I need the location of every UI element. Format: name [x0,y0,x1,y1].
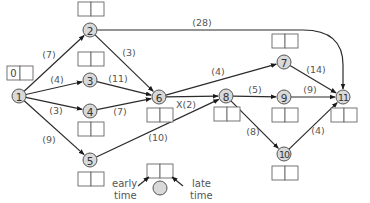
legend-early-arrow [138,177,149,186]
legend-early-label-2: time [114,190,137,201]
node-label: 7 [281,57,288,69]
edge-label-8-10: (8) [246,126,259,137]
early-time-box-10 [272,166,285,180]
node-11: 11 [331,90,357,122]
legend-early-box [147,164,160,178]
node-2: 2 [78,2,104,37]
node-label: 2 [87,25,94,37]
late-time-box-10 [285,166,298,180]
edge-label-1-5: (9) [42,134,55,145]
late-time-box-9 [285,108,298,122]
early-time-box-7 [272,34,285,48]
edge-label-1-3: (4) [50,74,63,85]
edge-label-8-9: (5) [248,84,261,95]
early-time-box-5 [78,172,91,186]
legend-late-label-1: late [192,178,211,189]
node-label: 11 [338,92,349,103]
early-time-box-11 [331,108,344,122]
node-label: 3 [87,75,94,87]
legend-late-box [160,164,173,178]
early-time-box-3 [78,52,91,66]
early-time-box-4 [78,122,91,136]
early-time-box-9 [272,108,285,122]
edge-label-6-8: X(2) [176,99,196,110]
late-time-box-2 [91,2,104,16]
edge-label-4-6: (7) [113,106,126,117]
late-time-box-5 [91,172,104,186]
node-9: 9 [272,90,298,122]
edge-label-9-11: (9) [303,84,316,95]
node-10: 10 [272,147,298,180]
edge-label-5-8: (10) [148,132,168,143]
early-time-box-8 [214,107,227,121]
node-label: 10 [279,149,290,160]
edges-layer [24,30,343,157]
late-time-box-4 [91,122,104,136]
node-label: 8 [223,91,230,103]
legend: early time late time [112,164,213,201]
node-5: 5 [78,153,104,186]
node-label: 5 [87,155,94,167]
legend-early-label-1: early [112,178,137,189]
late-time-box-1 [20,66,33,80]
edge-8-9 [233,96,276,97]
node-label: 4 [87,106,94,118]
legend-late-label-2: time [190,190,213,201]
late-time-box-11 [344,108,357,122]
legend-node-icon [153,181,167,195]
node-label: 1 [16,91,23,103]
node-8: 8 [214,89,240,121]
early-time-box-6 [147,108,160,122]
edge-label-10-11: (4) [311,125,324,136]
node-label: 9 [281,92,288,104]
edge-label-2-11: (28) [192,17,212,28]
node-1: 10 [7,66,33,103]
edge-label-6-7: (4) [211,66,224,77]
network-diagram: (7)(4)(3)(9)(3)(28)(11)(7)(10)(4)X(2)(14… [0,0,370,203]
edge-label-2-6: (3) [122,47,135,58]
late-time-box-3 [91,52,104,66]
node-label: 6 [156,92,163,104]
early-time-box-2 [78,2,91,16]
edge-label-1-4: (3) [49,105,62,116]
legend-late-arrow [172,177,183,186]
early-time-1: 0 [10,68,16,79]
late-time-box-6 [160,108,173,122]
edge-label-7-11: (14) [306,64,326,75]
edge-label-1-2: (7) [42,49,55,60]
late-time-box-8 [227,107,240,121]
edge-6-8 [166,96,218,97]
late-time-box-7 [285,34,298,48]
edge-label-3-6: (11) [108,73,128,84]
